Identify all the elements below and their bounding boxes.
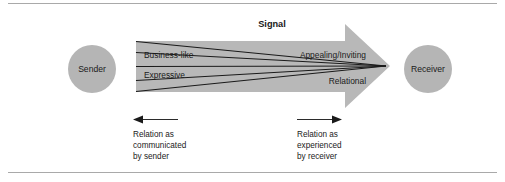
left-annotation-arrowhead-icon <box>133 116 143 124</box>
left-caption-line-3: by sender <box>133 152 169 161</box>
right-caption-line-3: by receiver <box>297 152 337 161</box>
right-annotation-arrowhead-icon <box>332 116 342 124</box>
band-label-business-like: Business-like <box>144 50 194 60</box>
receiver-node-label: Receiver <box>411 64 445 74</box>
right-caption-line-1: Relation as <box>297 130 338 139</box>
band-label-expressive: Expressive <box>144 70 185 80</box>
converge-line-center <box>136 66 386 67</box>
signal-diagram-figure: Sender Receiver Signal Business-like Exp… <box>0 0 505 182</box>
left-caption-line-1: Relation as <box>133 130 174 139</box>
sender-node-label: Sender <box>78 64 106 74</box>
right-caption-line-2: experienced <box>297 141 342 150</box>
left-caption-line-2: communicated <box>133 141 187 150</box>
band-label-relational: Relational <box>329 76 366 86</box>
diagram-canvas: Sender Receiver Signal Business-like Exp… <box>0 0 505 182</box>
band-label-appealing-inviting: Appealing/Inviting <box>300 50 366 60</box>
signal-title-label: Signal <box>258 19 286 29</box>
